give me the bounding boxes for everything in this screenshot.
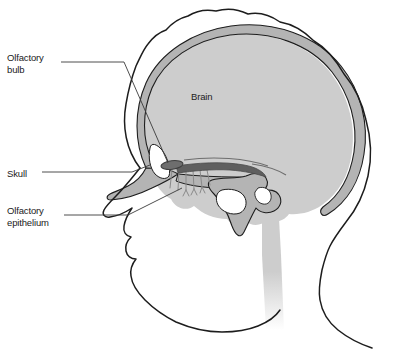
label-olfactory-bulb: Olfactory bulb	[7, 52, 44, 75]
label-skull: Skull	[7, 168, 27, 180]
anatomy-diagram	[0, 0, 398, 353]
label-brain: Brain	[191, 91, 212, 103]
leader-skull	[42, 165, 150, 172]
label-olfactory-epithelium: Olfactory epithelium	[7, 205, 49, 228]
